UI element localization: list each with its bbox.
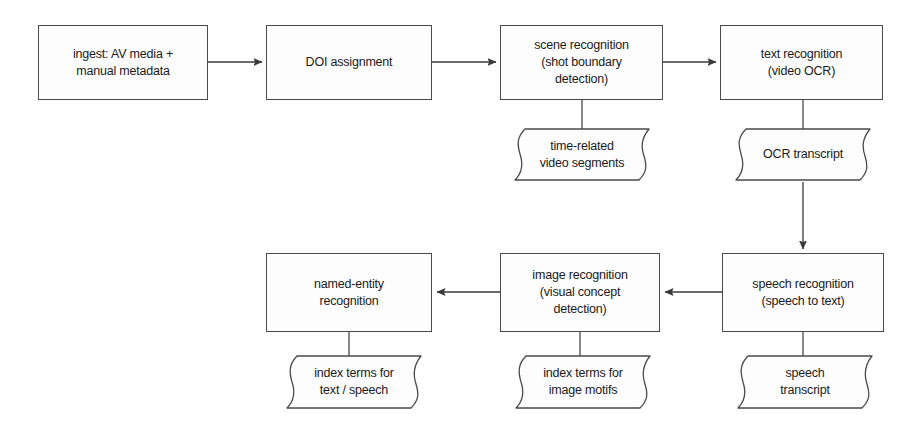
node-video-segments[interactable]: time-related video segments <box>513 127 651 182</box>
node-text-recognition[interactable]: text recognition (video OCR) <box>720 25 883 100</box>
node-index-terms-text-speech[interactable]: index terms for text / speech <box>285 354 423 410</box>
node-speech-recognition[interactable]: speech recognition (speech to text) <box>722 253 884 332</box>
node-doi-assignment[interactable]: DOI assignment <box>266 25 432 100</box>
node-speech-recognition-label: speech recognition (speech to text) <box>746 276 859 310</box>
node-index-terms-text-speech-label: index terms for text / speech <box>298 365 410 399</box>
node-video-segments-label: time-related video segments <box>524 138 641 172</box>
node-index-terms-image-motifs[interactable]: index terms for image motifs <box>514 354 652 410</box>
node-ocr-transcript[interactable]: OCR transcript <box>734 127 872 182</box>
node-speech-transcript-label: speech transcript <box>764 365 845 399</box>
node-text-recognition-label: text recognition (video OCR) <box>755 46 849 80</box>
node-scene-recognition-label: scene recognition (shot boundary detecti… <box>528 37 635 88</box>
node-ocr-transcript-label: OCR transcript <box>747 146 859 163</box>
node-ingest-label: ingest: AV media + manual metadata <box>67 46 179 80</box>
node-ingest[interactable]: ingest: AV media + manual metadata <box>38 25 208 100</box>
node-image-recognition-label: image recognition (visual concept detect… <box>526 267 633 318</box>
node-scene-recognition[interactable]: scene recognition (shot boundary detecti… <box>500 25 663 100</box>
node-named-entity-recognition[interactable]: named-entity recognition <box>266 253 432 332</box>
node-index-terms-image-motifs-label: index terms for image motifs <box>527 365 639 399</box>
node-doi-assignment-label: DOI assignment <box>300 54 399 71</box>
node-speech-transcript[interactable]: speech transcript <box>736 354 874 410</box>
flowchart-canvas: ingest: AV media + manual metadata DOI a… <box>0 0 920 439</box>
node-image-recognition[interactable]: image recognition (visual concept detect… <box>500 253 660 332</box>
node-named-entity-recognition-label: named-entity recognition <box>308 276 390 310</box>
